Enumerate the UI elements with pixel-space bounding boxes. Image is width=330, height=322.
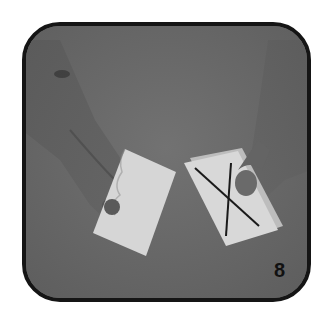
step-number-label: 8 [274,260,285,280]
photo-frame: 8 [22,22,311,302]
photo-illustration [22,22,311,302]
